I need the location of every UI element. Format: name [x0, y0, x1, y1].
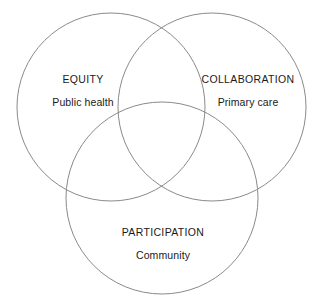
venn-label-participation-title: PARTICIPATION — [122, 227, 205, 238]
venn-label-collaboration-title: COLLABORATION — [201, 74, 294, 85]
venn-label-participation-subtitle: Community — [122, 250, 205, 261]
venn-diagram: EQUITY Public health COLLABORATION Prima… — [0, 0, 322, 307]
venn-label-equity-subtitle: Public health — [52, 97, 113, 108]
venn-label-collaboration-subtitle: Primary care — [201, 97, 294, 108]
venn-circle-participation — [66, 102, 258, 294]
venn-label-equity: EQUITY Public health — [52, 74, 113, 107]
venn-label-collaboration: COLLABORATION Primary care — [201, 74, 294, 107]
venn-circles-canvas — [0, 0, 322, 307]
venn-label-equity-title: EQUITY — [52, 74, 113, 85]
venn-label-participation: PARTICIPATION Community — [122, 227, 205, 260]
